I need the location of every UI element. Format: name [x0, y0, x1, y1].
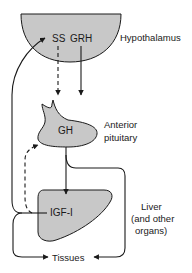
liver-label-line1: Liver — [141, 201, 162, 212]
pituitary-label-line1: Anterior — [104, 119, 137, 130]
liver-label-line3: organs) — [135, 225, 167, 236]
igf1-to-pituitary-feedback-arrow — [25, 145, 38, 213]
igf1-to-ss-feedback-arrow — [12, 38, 45, 213]
hypothalamus-label: Hypothalamus — [120, 32, 181, 43]
gh-label: GH — [58, 125, 73, 136]
gh-axis-diagram: SS GRH Hypothalamus GH Anterior pituitar… — [0, 0, 192, 273]
grh-label: GRH — [70, 33, 92, 44]
tissues-label: Tissues — [52, 252, 85, 263]
ss-label: SS — [52, 33, 66, 44]
pituitary-shape — [38, 100, 97, 147]
igf1-label: IGF-I — [50, 207, 73, 218]
liver-label-line2: (and other — [131, 213, 174, 224]
pituitary-label-line2: pituitary — [104, 132, 138, 143]
